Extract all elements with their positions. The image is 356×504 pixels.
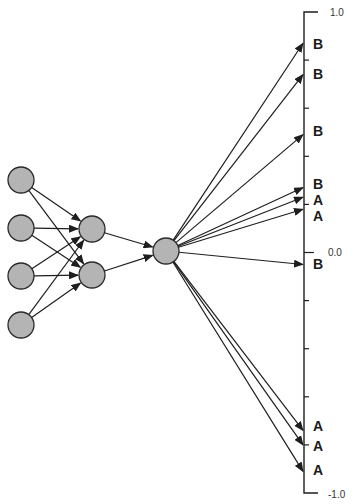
hidden-node-h1	[79, 216, 105, 242]
axis-zero-label: 0.0	[328, 247, 342, 258]
connection-i3-h2	[34, 275, 78, 276]
input-node-i4	[8, 312, 34, 338]
class-label-b: B	[313, 176, 323, 192]
output-arrow-3	[176, 135, 303, 243]
class-label-b: B	[313, 256, 323, 272]
network-connections	[29, 187, 153, 317]
connection-h1-o1	[104, 233, 152, 247]
class-label-a: A	[313, 462, 323, 478]
class-label-b: B	[313, 66, 323, 82]
output-node-o1	[153, 238, 179, 264]
output-arrow-10	[173, 262, 303, 471]
class-label-b: B	[313, 36, 323, 52]
network-nodes	[8, 167, 179, 338]
input-node-i3	[8, 263, 34, 289]
class-labels: BBBBAABAAA	[313, 36, 323, 478]
output-arrow-6	[178, 209, 303, 247]
connection-i2-h1	[34, 228, 78, 229]
class-label-a: A	[313, 208, 323, 224]
class-label-a: A	[313, 418, 323, 434]
output-mapping-arrows	[173, 43, 303, 471]
network-diagram: 1.0 0.0 -1.0 BBBBAABAAA	[0, 0, 356, 504]
output-arrow-1	[173, 43, 303, 240]
input-node-i1	[8, 167, 34, 193]
connection-h2-o1	[104, 255, 152, 271]
output-arrow-9	[174, 262, 303, 445]
class-label-a: A	[313, 192, 323, 208]
connection-i2-h2	[32, 235, 80, 267]
output-arrow-7	[179, 252, 303, 264]
hidden-node-h2	[79, 262, 105, 288]
input-node-i2	[8, 215, 34, 241]
output-arrow-8	[174, 261, 303, 430]
class-label-a: A	[313, 438, 323, 454]
class-label-b: B	[313, 123, 323, 139]
output-arrow-4	[178, 188, 303, 246]
output-axis: 1.0 0.0 -1.0	[304, 7, 346, 500]
output-arrow-2	[174, 75, 303, 241]
connection-i3-h1	[32, 237, 80, 269]
axis-max-label: 1.0	[330, 7, 344, 18]
axis-min-label: -1.0	[328, 489, 346, 500]
